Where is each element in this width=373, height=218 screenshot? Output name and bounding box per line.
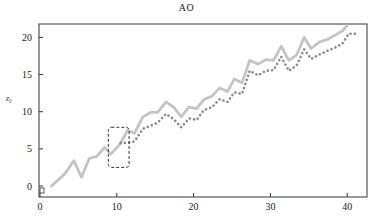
y-tick-label: 5 bbox=[27, 143, 32, 154]
x-tick-label: 30 bbox=[265, 201, 275, 212]
x-tick-label: 10 bbox=[112, 201, 122, 212]
y-tick-label: 20 bbox=[22, 32, 32, 43]
y-tick-label: 0 bbox=[27, 181, 32, 192]
y-tick-label: 10 bbox=[22, 106, 32, 117]
x-tick-label: 20 bbox=[189, 201, 199, 212]
origin-marker bbox=[40, 188, 44, 193]
y-tick-label: 15 bbox=[22, 69, 32, 80]
x-tick-label: 0 bbox=[38, 201, 43, 212]
line-chart: 01020304005101520z₀ bbox=[0, 0, 373, 218]
x-tick-label: 40 bbox=[342, 201, 352, 212]
series-dotted-line bbox=[121, 34, 357, 143]
y-axis-label: z₀ bbox=[5, 94, 12, 103]
series-solid-line bbox=[52, 26, 348, 187]
